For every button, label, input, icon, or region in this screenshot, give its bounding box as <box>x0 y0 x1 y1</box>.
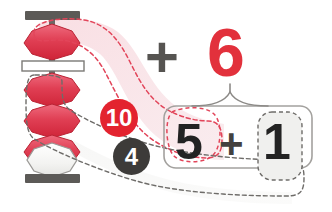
decomposition-left-digit: 5 <box>175 117 203 167</box>
badge-complement-four: 4 <box>113 138 150 175</box>
earth-bead-0[interactable] <box>24 73 80 107</box>
earth-bead-1[interactable] <box>24 104 80 138</box>
decomposition-right-digit: 1 <box>263 117 291 167</box>
decomposition-plus-operator: + <box>219 123 244 165</box>
abacus-addition-diagram: + 6 5 + 1 10 4 <box>0 0 332 212</box>
abacus <box>22 11 84 183</box>
abacus-reckoning-bar <box>22 61 84 71</box>
main-plus-operator: + <box>145 28 179 86</box>
addend-six: 6 <box>207 18 244 86</box>
badge-complement-ten: 10 <box>100 99 138 137</box>
abacus-bottom-bar <box>25 174 80 183</box>
